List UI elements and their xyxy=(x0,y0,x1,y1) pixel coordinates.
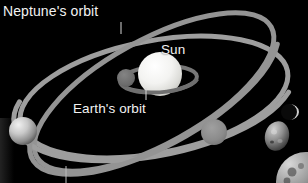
leader-lines-layer xyxy=(0,0,308,183)
solar-system-diagram: Neptune's orbit Sun Earth's orbit xyxy=(0,0,308,183)
label-earth-orbit: Earth's orbit xyxy=(73,102,146,116)
label-neptune-orbit: Neptune's orbit xyxy=(3,4,98,18)
label-sun: Sun xyxy=(161,43,185,57)
